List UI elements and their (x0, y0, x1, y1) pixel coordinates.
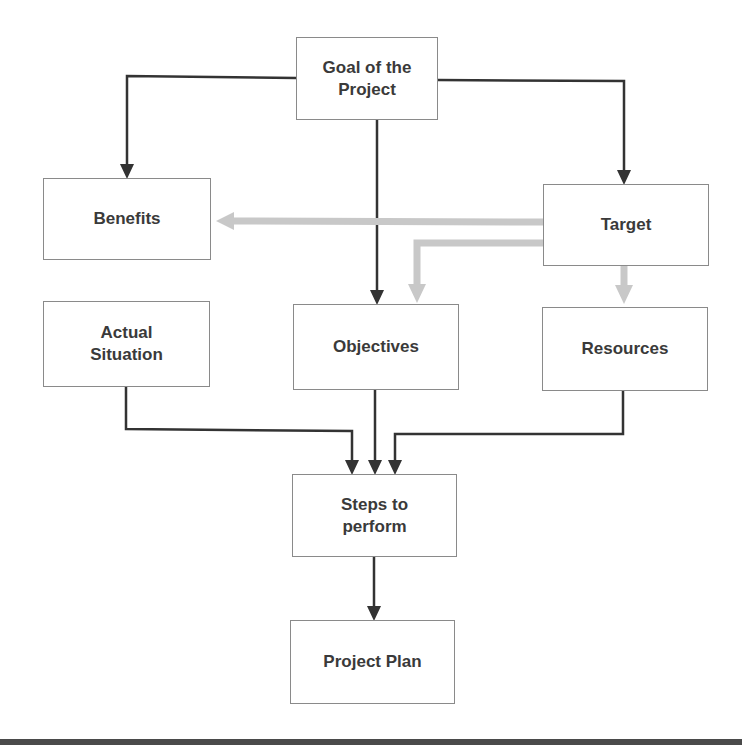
node-goal-of-the-project: Goal of the Project (296, 37, 438, 120)
edge-goal-to-target (438, 80, 631, 185)
node-actual-situation: Actual Situation (43, 301, 210, 387)
bottom-divider (0, 739, 742, 745)
project-planning-diagram: Goal of the Project Benefits Target Actu… (0, 0, 742, 752)
node-label: Actual Situation (90, 322, 163, 366)
node-label: Resources (582, 338, 669, 360)
node-objectives: Objectives (293, 304, 459, 390)
node-label: Benefits (93, 208, 160, 230)
edge-goal-to-objectives (370, 120, 384, 305)
edge-objectives-to-steps (368, 390, 382, 475)
edge-target-to-objectives (408, 243, 545, 303)
edge-actual-to-steps (126, 387, 359, 475)
edge-steps-to-plan (367, 557, 381, 621)
node-label: Target (601, 214, 652, 236)
edge-resources-to-steps (388, 391, 623, 475)
edge-target-to-resources (615, 266, 633, 304)
node-resources: Resources (542, 307, 708, 391)
node-steps-to-perform: Steps to perform (292, 474, 457, 557)
node-benefits: Benefits (43, 178, 211, 260)
node-project-plan: Project Plan (290, 620, 455, 704)
node-label: Steps to perform (341, 494, 408, 538)
edge-target-to-benefits (216, 212, 545, 230)
node-label: Goal of the Project (323, 57, 412, 101)
node-target: Target (543, 184, 709, 266)
node-label: Objectives (333, 336, 419, 358)
edge-goal-to-benefits (120, 76, 296, 179)
node-label: Project Plan (323, 651, 421, 673)
